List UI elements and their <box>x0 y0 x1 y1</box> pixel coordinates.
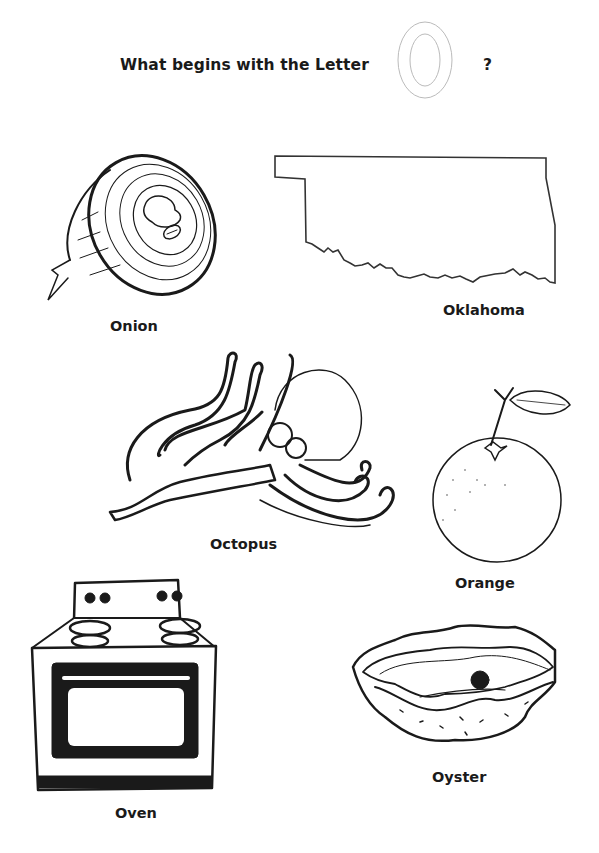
octopus-label: Octopus <box>210 536 277 552</box>
orange-illustration <box>425 380 585 570</box>
onion-label: Onion <box>110 318 158 334</box>
oyster-illustration <box>345 622 560 752</box>
oklahoma-illustration <box>270 150 570 290</box>
question-mark: ? <box>483 56 492 74</box>
oven-illustration <box>30 578 220 793</box>
onion-illustration <box>40 150 230 310</box>
oklahoma-label: Oklahoma <box>443 302 525 318</box>
worksheet-title: What begins with the Letter <box>120 56 369 74</box>
orange-label: Orange <box>455 575 515 591</box>
octopus-illustration <box>100 350 420 530</box>
oyster-label: Oyster <box>432 769 486 785</box>
oven-label: Oven <box>115 805 157 821</box>
letter-o-outline <box>385 20 465 100</box>
